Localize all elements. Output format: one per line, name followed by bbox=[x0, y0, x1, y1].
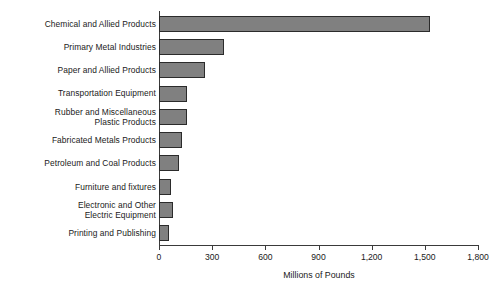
x-tick bbox=[319, 245, 320, 250]
bar bbox=[159, 62, 205, 78]
bar bbox=[159, 132, 182, 148]
bar bbox=[159, 179, 171, 195]
x-tick bbox=[372, 245, 373, 250]
category-label: Electronic and Other Electric Equipment bbox=[0, 200, 156, 220]
x-axis-title: Millions of Pounds bbox=[159, 270, 479, 280]
bar-container bbox=[159, 39, 224, 55]
bar-container bbox=[159, 132, 182, 148]
bar-container bbox=[159, 86, 187, 102]
x-tick-label: 1,500 bbox=[395, 252, 455, 262]
x-tick bbox=[212, 245, 213, 250]
bar-row: Chemical and Allied Products bbox=[0, 12, 501, 35]
x-tick-label: 900 bbox=[289, 252, 349, 262]
bar-container bbox=[159, 155, 179, 171]
category-label: Fabricated Metals Products bbox=[0, 135, 156, 145]
bar-row: Fabricated Metals Products bbox=[0, 128, 501, 151]
x-tick bbox=[425, 245, 426, 250]
bar-row: Rubber and Miscellaneous Plastic Product… bbox=[0, 105, 501, 128]
bar-row: Primary Metal Industries bbox=[0, 35, 501, 58]
bar-container bbox=[159, 179, 171, 195]
x-tick-label: 600 bbox=[235, 252, 295, 262]
bar bbox=[159, 202, 173, 218]
bar bbox=[159, 39, 224, 55]
category-label: Petroleum and Coal Products bbox=[0, 158, 156, 168]
x-tick-label: 1,200 bbox=[342, 252, 402, 262]
category-label: Chemical and Allied Products bbox=[0, 19, 156, 29]
bar-row: Furniture and fixtures bbox=[0, 175, 501, 198]
x-tick bbox=[159, 245, 160, 250]
x-tick-label: 1,800 bbox=[448, 252, 501, 262]
bar-container bbox=[159, 109, 187, 125]
bar bbox=[159, 155, 179, 171]
bar-container bbox=[159, 225, 169, 241]
bar-rows: Chemical and Allied ProductsPrimary Meta… bbox=[0, 12, 501, 245]
category-label: Rubber and Miscellaneous Plastic Product… bbox=[0, 107, 156, 127]
x-tick bbox=[265, 245, 266, 250]
bar-chart: Chemical and Allied ProductsPrimary Meta… bbox=[0, 0, 501, 297]
x-tick-label: 0 bbox=[129, 252, 189, 262]
bar bbox=[159, 86, 187, 102]
bar bbox=[159, 109, 187, 125]
x-tick-label: 300 bbox=[182, 252, 242, 262]
category-label: Paper and Allied Products bbox=[0, 65, 156, 75]
bar bbox=[159, 225, 169, 241]
bar-row: Paper and Allied Products bbox=[0, 59, 501, 82]
category-label: Furniture and fixtures bbox=[0, 182, 156, 192]
category-label: Transportation Equipment bbox=[0, 88, 156, 98]
bar-row: Petroleum and Coal Products bbox=[0, 152, 501, 175]
bar-container bbox=[159, 202, 173, 218]
x-tick bbox=[478, 245, 479, 250]
bar-row: Printing and Publishing bbox=[0, 222, 501, 245]
category-label: Primary Metal Industries bbox=[0, 42, 156, 52]
bar-row: Electronic and Other Electric Equipment bbox=[0, 198, 501, 221]
bar bbox=[159, 16, 430, 32]
bar-container bbox=[159, 16, 430, 32]
category-label: Printing and Publishing bbox=[0, 228, 156, 238]
bar-row: Transportation Equipment bbox=[0, 82, 501, 105]
bar-container bbox=[159, 62, 205, 78]
